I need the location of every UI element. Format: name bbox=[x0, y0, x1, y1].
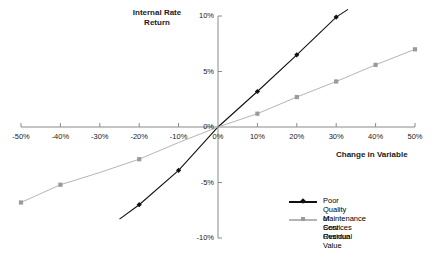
x-tick-label: 0% bbox=[202, 132, 234, 141]
x-tick-label: 40% bbox=[360, 132, 392, 141]
series-line-0 bbox=[120, 9, 349, 219]
data-point-marker bbox=[295, 95, 299, 99]
y-tick-label: 0% bbox=[184, 122, 214, 131]
x-tick-label: -30% bbox=[84, 132, 116, 141]
data-point-marker bbox=[413, 47, 417, 51]
x-tick-label: -10% bbox=[163, 132, 195, 141]
y-tick-label: -10% bbox=[184, 233, 214, 242]
x-tick-label: -20% bbox=[123, 132, 155, 141]
x-axis-title: Change in Variable bbox=[336, 150, 408, 159]
series-0 bbox=[120, 9, 349, 219]
data-point-marker bbox=[19, 200, 23, 204]
chart-container: Internal Rate Return Change in Variable … bbox=[0, 0, 437, 259]
x-tick-label: 30% bbox=[320, 132, 352, 141]
legend-square-icon bbox=[301, 217, 305, 221]
x-tick-label: -40% bbox=[44, 132, 76, 141]
data-point-marker bbox=[334, 79, 338, 83]
y-tick-label: 5% bbox=[184, 67, 214, 76]
data-point-marker bbox=[137, 157, 141, 161]
y-tick-label: -5% bbox=[184, 178, 214, 187]
chart-plot-area bbox=[0, 0, 437, 259]
x-tick-label: 10% bbox=[241, 132, 273, 141]
data-point-marker bbox=[374, 63, 378, 67]
x-tick-label: 50% bbox=[399, 132, 431, 141]
y-tick-label: 10% bbox=[184, 11, 214, 20]
legend-label: Residual Value bbox=[323, 232, 352, 250]
data-point-marker bbox=[255, 112, 259, 116]
x-tick-label: 20% bbox=[281, 132, 313, 141]
data-point-marker bbox=[58, 183, 62, 187]
x-tick-label: -50% bbox=[5, 132, 37, 141]
